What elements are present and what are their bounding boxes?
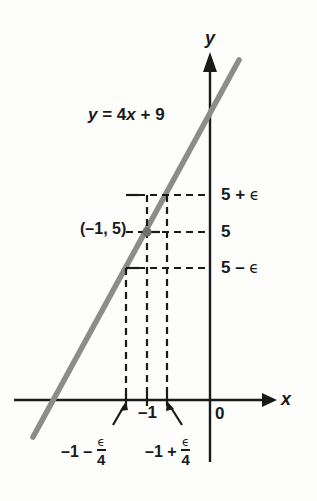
x-axis-label: x (281, 390, 291, 408)
y-axis-label: y (205, 29, 215, 47)
vertical-guides (126, 195, 167, 400)
point-coordinate-label: (–1, 5) (80, 221, 126, 237)
graph-canvas (0, 0, 317, 501)
y-tick-label-middle: 5 (221, 223, 230, 240)
x-tick-label-left: –1 – ϵ4 (61, 437, 106, 468)
y-axis-arrow-head (203, 52, 217, 72)
x-axis-arrow-head (262, 393, 277, 407)
marked-point (142, 227, 151, 236)
origin-label: 0 (215, 405, 224, 422)
epsilon-delta-graph-figure: y = 4x + 9 (–1, 5) 5 + ϵ 5 5 – ϵ x y 0 –… (0, 0, 317, 501)
equation-label: y = 4x + 9 (88, 106, 165, 123)
y-tick-label-lower: 5 – ϵ (221, 259, 259, 276)
x-tick-label-center: –1 (138, 404, 157, 421)
x-tick-label-right: –1 + ϵ4 (145, 437, 190, 468)
y-tick-label-upper: 5 + ϵ (221, 186, 259, 203)
